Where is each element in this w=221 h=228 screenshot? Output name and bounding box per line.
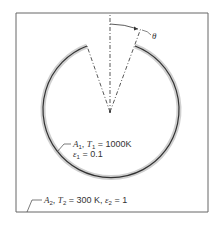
angle-theta-indicator	[110, 24, 151, 35]
surface1-label-line2: ε1 = 0.1	[73, 149, 103, 160]
cylinder-surface	[43, 46, 179, 178]
angle-label: θ	[152, 31, 157, 41]
slot-radial-lines	[87, 13, 141, 113]
radiation-enclosure-diagram: θ A1, T1 = 1000K ε1 = 0.1 A2, T2 = 300 K…	[0, 0, 221, 228]
leader-line-a2	[27, 200, 42, 212]
surface2-label: A2, T2 = 300 K, ε2 = 1	[43, 195, 127, 206]
